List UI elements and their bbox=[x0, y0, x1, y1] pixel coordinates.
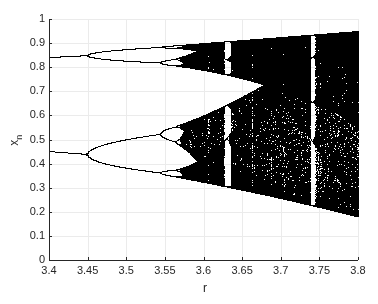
x-tick-label: 3.7 bbox=[261, 264, 301, 276]
y-tick-label: 0.4 bbox=[15, 157, 45, 169]
y-tick-label: 0.8 bbox=[15, 60, 45, 72]
y-axis-label-text: x bbox=[7, 140, 21, 146]
x-axis-label: r bbox=[199, 281, 211, 295]
y-tick-label: 0.3 bbox=[15, 181, 45, 193]
x-tick-label: 3.55 bbox=[145, 264, 185, 276]
y-tick-label: 0.1 bbox=[15, 229, 45, 241]
bifurcation-figure: 00.10.20.30.40.50.60.70.80.91 3.43.453.5… bbox=[0, 0, 378, 304]
y-axis-label-subscript: n bbox=[14, 135, 24, 140]
x-tick-label: 3.4 bbox=[29, 264, 69, 276]
y-axis-label: xn bbox=[7, 135, 23, 146]
y-tick-label: 1 bbox=[15, 12, 45, 24]
x-tick-label: 3.5 bbox=[106, 264, 146, 276]
y-tick-label: 0.9 bbox=[15, 36, 45, 48]
x-tick-label: 3.45 bbox=[68, 264, 108, 276]
y-tick-label: 0.7 bbox=[15, 84, 45, 96]
plot-area bbox=[0, 0, 378, 304]
x-tick-label: 3.75 bbox=[299, 264, 339, 276]
x-tick-label: 3.6 bbox=[184, 264, 224, 276]
x-tick-label: 3.8 bbox=[338, 264, 378, 276]
x-tick-label: 3.65 bbox=[222, 264, 262, 276]
y-tick-label: 0.6 bbox=[15, 108, 45, 120]
y-tick-label: 0.2 bbox=[15, 205, 45, 217]
